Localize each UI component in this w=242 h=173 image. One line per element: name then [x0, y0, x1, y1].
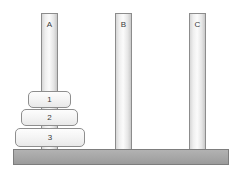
disk-1[interactable]: 1 — [28, 91, 71, 108]
disk-1-label: 1 — [47, 95, 51, 104]
peg-c[interactable]: C — [189, 13, 206, 150]
peg-b[interactable]: B — [115, 13, 132, 150]
peg-a-label: A — [42, 20, 57, 29]
tower-of-hanoi-diagram: A B C 1 2 3 — [0, 0, 242, 173]
disk-2-label: 2 — [47, 113, 51, 122]
base-bar — [13, 149, 229, 165]
disk-3-label: 3 — [48, 133, 52, 142]
peg-c-label: C — [190, 20, 205, 29]
disk-2[interactable]: 2 — [21, 109, 78, 126]
disk-3[interactable]: 3 — [15, 128, 85, 147]
peg-b-label: B — [116, 20, 131, 29]
